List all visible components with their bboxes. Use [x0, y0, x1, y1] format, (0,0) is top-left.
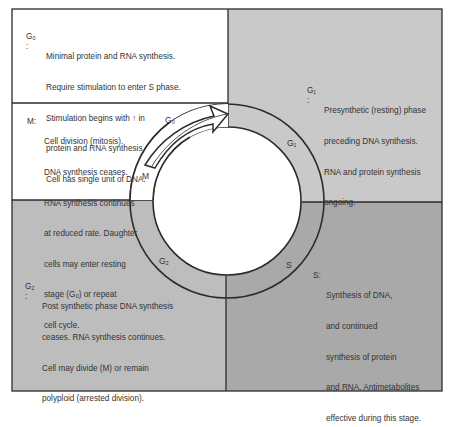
- g2-tag: G₂ :: [25, 282, 35, 302]
- g0-tag: G₀ :: [26, 32, 36, 52]
- s-line: and continued: [326, 322, 421, 332]
- ring-label-g1: G₁: [287, 138, 296, 148]
- g2-line: Cell may divide (M) or remain: [42, 364, 173, 374]
- g1-line: ongoing.: [324, 198, 426, 208]
- g2-line: Post synthetic phase DNA synthesis: [42, 302, 173, 312]
- ring-label-m: M: [142, 171, 149, 181]
- g1-line: Presynthetic (resting) phase: [324, 106, 426, 116]
- g1-line: RNA and protein synthesis: [324, 168, 426, 178]
- s-line: and RNA. Antimetabolites: [326, 383, 421, 393]
- s-tag: S:: [313, 271, 321, 281]
- g0-line: Require stimulation to enter S phase.: [46, 83, 181, 93]
- g1-line: preceding DNA synthesis.: [324, 137, 426, 147]
- s-line: Synthesis of DNA,: [326, 291, 421, 301]
- g2-line: polyploid (arrested division).: [42, 394, 173, 404]
- ring-label-g0: G₀: [165, 115, 175, 125]
- m-line: RNA synthesis continues: [44, 199, 137, 209]
- g1-tag: G₁ :: [307, 86, 316, 106]
- m-line: DNA synthesis ceases.: [44, 168, 137, 178]
- s-line: effective during this stage.: [326, 414, 421, 424]
- g2-line: ceases. RNA synthesis continues.: [42, 333, 173, 343]
- m-tag: M:: [27, 117, 36, 127]
- ring-label-s: S: [286, 260, 292, 270]
- m-line: at reduced rate. Daughter: [44, 229, 137, 239]
- m-line: cells may enter resting: [44, 260, 137, 270]
- ring-label-g2: G₂: [159, 256, 169, 266]
- s-line: synthesis of protein: [326, 353, 421, 363]
- m-line: Cell division (mitosis).: [44, 137, 137, 147]
- g0-line: Minimal protein and RNA synthesis.: [46, 52, 181, 62]
